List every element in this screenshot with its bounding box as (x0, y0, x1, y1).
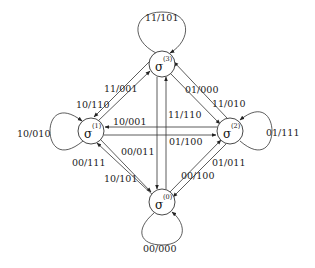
label-s2-to-s0: 00/100 (181, 170, 214, 181)
label-s3-to-s0: 00/011 (121, 146, 154, 157)
label-loop-s0: 00/000 (143, 243, 176, 254)
label-loop-s3: 11/101 (145, 12, 178, 23)
label-s3-to-s2: 01/000 (185, 84, 218, 95)
label-s0-to-s3: 11/110 (168, 109, 201, 120)
label-s0-to-s2: 01/011 (212, 157, 245, 168)
state-diagram: σ (3) σ (1) σ (2) σ (0) 11/101 10/010 01… (0, 0, 315, 268)
state-symbol: σ (155, 198, 163, 212)
label-s3-to-s1: 10/110 (76, 99, 109, 110)
state-index: (2) (231, 122, 241, 130)
self-loop-s0 (142, 212, 183, 245)
label-s1-to-s2: 01/100 (169, 136, 202, 147)
label-s1-to-s3: 11/001 (104, 83, 137, 94)
state-symbol: σ (155, 60, 163, 74)
state-index: (1) (92, 122, 102, 130)
label-s2-to-s3: 11/010 (212, 98, 245, 109)
state-index: (0) (163, 193, 173, 201)
state-index: (3) (163, 55, 173, 63)
label-s0-to-s1: 00/111 (72, 157, 105, 168)
state-symbol: σ (223, 127, 231, 141)
state-node-s1: σ (1) (78, 118, 104, 144)
state-node-s3: σ (3) (149, 51, 175, 77)
label-loop-s1: 10/010 (17, 128, 50, 139)
label-s2-to-s1: 10/001 (113, 116, 146, 127)
label-loop-s2: 01/111 (266, 127, 299, 138)
label-s1-to-s0: 10/101 (104, 173, 137, 184)
state-node-s0: σ (0) (149, 189, 175, 215)
edge-s1-to-s3 (98, 71, 150, 121)
state-node-s2: σ (2) (217, 118, 243, 144)
state-symbol: σ (84, 127, 92, 141)
